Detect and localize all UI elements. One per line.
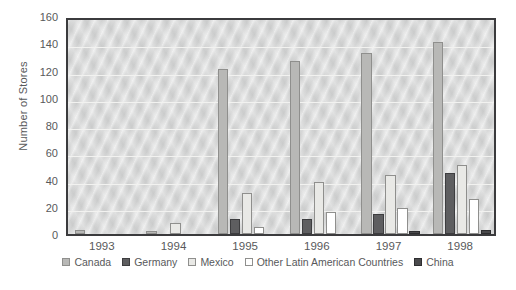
bar-group-1998 (68, 20, 496, 234)
bar-1998-other-latin-american-countries (469, 199, 480, 234)
x-axis-tick-label: 1993 (67, 240, 137, 252)
y-axis-tick-label: 140 (0, 39, 58, 50)
y-axis-tick-label: 100 (0, 94, 58, 105)
legend-swatch-icon (62, 258, 70, 266)
y-axis-tick-label: 160 (0, 12, 58, 23)
y-axis-tick-label: 80 (0, 121, 58, 132)
legend-label: Other Latin American Countries (257, 256, 404, 268)
legend-swatch-icon (245, 258, 253, 266)
bar-1998-mexico (457, 165, 468, 234)
bar-chart: Number of Stores 020406080100120140160 1… (0, 0, 516, 290)
legend-label: China (426, 256, 453, 268)
legend-item-other-latin-american-countries[interactable]: Other Latin American Countries (245, 256, 404, 268)
bar-1998-germany (445, 173, 456, 234)
bar-1998-china (481, 230, 492, 234)
x-axis-tick-label: 1998 (425, 240, 495, 252)
plot-area (66, 18, 496, 236)
bar-1998-canada (433, 42, 444, 234)
legend-label: Mexico (200, 256, 233, 268)
legend-swatch-icon (414, 258, 422, 266)
y-axis-tick-label: 40 (0, 176, 58, 187)
y-axis-tick-label: 120 (0, 67, 58, 78)
x-axis-tick-label: 1996 (282, 240, 352, 252)
x-axis-tick-label: 1997 (354, 240, 424, 252)
legend-item-canada[interactable]: Canada (62, 256, 111, 268)
y-axis-tick-label: 20 (0, 203, 58, 214)
legend-item-germany[interactable]: Germany (122, 256, 177, 268)
legend-label: Germany (134, 256, 177, 268)
legend-item-china[interactable]: China (414, 256, 453, 268)
y-axis-tick-label: 0 (0, 230, 58, 241)
legend-label: Canada (74, 256, 111, 268)
legend-swatch-icon (122, 258, 130, 266)
x-axis-tick-label: 1994 (139, 240, 209, 252)
y-axis-tick-label: 60 (0, 148, 58, 159)
x-axis-tick-label: 1995 (210, 240, 280, 252)
legend: CanadaGermanyMexicoOther Latin American … (0, 256, 516, 268)
legend-item-mexico[interactable]: Mexico (188, 256, 233, 268)
legend-swatch-icon (188, 258, 196, 266)
